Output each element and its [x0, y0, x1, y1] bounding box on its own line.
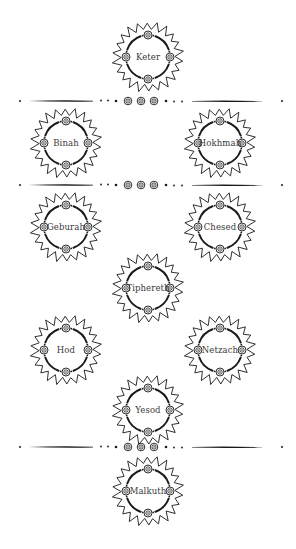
sephira-hod: Hod	[28, 312, 104, 388]
sephira-label: Binah	[28, 105, 104, 181]
sephira-malkuth: Malkuth	[110, 453, 186, 529]
sephira-hokhmah: Hokhmah	[182, 105, 258, 181]
divider-ornament-icon	[0, 440, 296, 454]
ornamental-divider	[0, 178, 296, 192]
sephira-tiphereth: Tiphereth	[110, 250, 186, 326]
sephira-label: Chesed	[182, 189, 258, 265]
sephira-label: Yesod	[110, 372, 186, 448]
sephira-label: Tiphereth	[110, 250, 186, 326]
sephira-binah: Binah	[28, 105, 104, 181]
divider-ornament-icon	[0, 94, 296, 108]
sephira-yesod: Yesod	[110, 372, 186, 448]
sephira-label: Malkuth	[110, 453, 186, 529]
sephira-label: Keter	[110, 19, 186, 95]
divider-ornament-icon	[0, 178, 296, 192]
sephira-label: Geburah	[28, 189, 104, 265]
sephira-keter: Keter	[110, 19, 186, 95]
sephira-label: Hod	[28, 312, 104, 388]
sephira-chesed: Chesed	[182, 189, 258, 265]
ornamental-divider	[0, 440, 296, 454]
sephira-label: Hokhmah	[182, 105, 258, 181]
tree-of-life-diagram: Keter Binah Hokhmah Geburah Chesed Tiphe…	[0, 0, 296, 549]
sephira-geburah: Geburah	[28, 189, 104, 265]
sephira-netzach: Netzach	[182, 312, 258, 388]
sephira-label: Netzach	[182, 312, 258, 388]
ornamental-divider	[0, 94, 296, 108]
